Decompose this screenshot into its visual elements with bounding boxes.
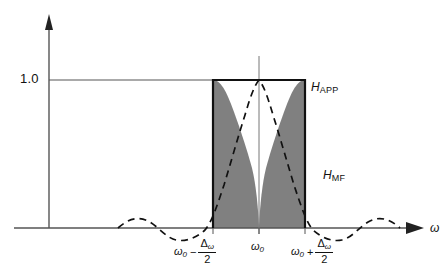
y-axis-arrow [45,14,53,30]
filter-response-plot [0,0,445,276]
tick-right-omega-sub: 0 [300,250,304,259]
tick-left-numerator: Δ [200,237,207,249]
curve-label-h-mf: HMF [323,168,345,183]
curve-label-h-app: HAPP [311,80,339,95]
tick-left-numerator-sub: ω [208,242,214,251]
shaded-region-left [213,80,259,228]
tick-left-omega-sub: 0 [183,250,187,259]
h-app-subscript: APP [320,85,339,95]
shaded-region-right [259,80,305,228]
tick-right-numerator: Δ [317,237,324,249]
tick-right-operator: + [307,246,313,258]
tick-left-omega: ω [174,245,183,257]
figure-container: 1.0 HAPP HMF ω ω0 − Δω 2 ω0 ω0 + Δω 2 [0,0,445,276]
tick-left-fraction: Δω 2 [198,238,216,265]
tick-left-denominator: 2 [204,253,210,265]
tick-right-numerator-sub: ω [325,242,331,251]
tick-left-operator: − [190,246,196,258]
x-tick-label-center: ω0 [251,240,264,254]
h-mf-subscript: MF [332,173,346,183]
y-axis-tick-label: 1.0 [20,71,39,86]
h-mf-symbol: H [323,168,332,182]
tick-center-omega: ω [251,240,260,252]
x-tick-label-left: ω0 − Δω 2 [174,238,216,265]
tick-right-omega: ω [291,245,300,257]
tick-center-omega-sub: 0 [260,245,264,254]
x-tick-label-right: ω0 + Δω 2 [291,238,333,265]
tick-right-denominator: 2 [321,253,327,265]
x-axis-label: ω [430,221,439,235]
tick-right-fraction: Δω 2 [315,238,333,265]
x-axis-arrow [406,222,424,234]
h-app-symbol: H [311,80,320,94]
